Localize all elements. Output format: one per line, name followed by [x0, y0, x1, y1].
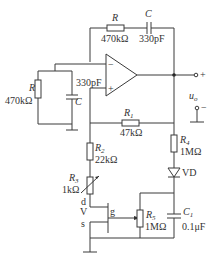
r4-value: 1MΩ [180, 146, 201, 157]
output-plus-terminal [194, 73, 198, 77]
r3-value: 1kΩ [62, 184, 79, 195]
feedback-resistor-value: 470kΩ [101, 33, 128, 44]
jfet-gate-label: g [110, 206, 115, 217]
output-minus-terminal [195, 106, 199, 110]
r5-value: 1MΩ [145, 221, 166, 232]
vd-diode [168, 168, 180, 177]
r4-resistor [171, 135, 177, 152]
ground-resistor-name: R [28, 82, 35, 93]
r3-potentiometer [87, 177, 93, 194]
c1-name: C1 [183, 206, 193, 219]
output-label: uo [189, 90, 198, 103]
r1-value: 47kΩ [120, 127, 142, 138]
r1-network: R1 47kΩ [90, 75, 174, 146]
jfet-name: V [80, 206, 88, 217]
noninverting-input-sign: + [108, 83, 114, 94]
r2-value: 22kΩ [95, 154, 117, 165]
feedback-capacitor-value: 330pF [139, 33, 165, 44]
feedback-resistor-name: R [111, 12, 118, 23]
output-minus-sign: − [201, 102, 207, 113]
r1-resistor [122, 120, 139, 126]
jfet: d V g s [80, 196, 140, 252]
vd-label: VD [182, 167, 196, 178]
feedback-network: R 470kΩ C 330pF [90, 8, 174, 75]
opamp: − + [106, 54, 194, 96]
r2-r3-chain: R2 22kΩ R3 1kΩ [62, 142, 117, 207]
ground-resistor-value: 470kΩ [5, 95, 32, 106]
r5-potentiometer [137, 210, 143, 227]
ground-rc-network: R 470kΩ C 330pF [5, 64, 106, 130]
feedback-capacitor-name: C [145, 8, 152, 19]
feedback-resistor [107, 25, 124, 31]
jfet-source-label: s [81, 218, 85, 229]
r1-name: R1 [123, 107, 134, 120]
output-terminals: + uo − [189, 69, 207, 122]
ground-resistor [35, 80, 41, 98]
r2-resistor [87, 143, 93, 160]
circuit-diagram: R 470kΩ C 330pF − + R 470kΩ C 330pF + uo… [0, 0, 214, 263]
output-plus-sign: + [200, 69, 206, 80]
ground-capacitor-value: 330pF [76, 77, 102, 88]
ground-capacitor-name: C [75, 96, 82, 107]
inverting-input-sign: − [108, 59, 114, 70]
c1-value: 0.1μF [182, 221, 206, 232]
